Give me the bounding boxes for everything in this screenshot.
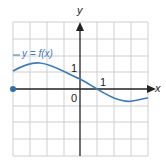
origin-label: 0 [71, 93, 77, 104]
endpoint-dot [10, 86, 16, 92]
y-tick-label: 1 [71, 63, 77, 74]
curve-label: y = f(x) [22, 49, 53, 59]
x-tick-label: 1 [100, 77, 106, 88]
y-axis-label: y [77, 5, 83, 16]
x-axis-label: x [155, 83, 161, 94]
graph-plot [0, 0, 166, 167]
y-axis-arrow-icon [76, 22, 84, 31]
